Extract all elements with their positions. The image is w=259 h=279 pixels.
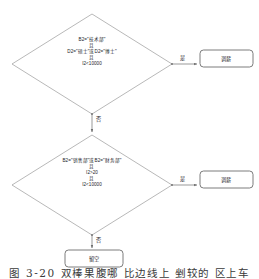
result-2-label: 调薪 bbox=[200, 176, 253, 183]
edge-no-1-label: 否 bbox=[96, 115, 101, 122]
decision-2-shape bbox=[12, 135, 172, 235]
edge-yes-1-label: 是 bbox=[180, 54, 185, 61]
result-3-label: 留空 bbox=[65, 255, 123, 262]
figure-caption: 图 3-20 双棒果腹哪 比边线上 剉较的 区上车 bbox=[0, 265, 259, 279]
result-1-label: 调薪 bbox=[200, 55, 253, 62]
decision-1-shape bbox=[12, 14, 172, 114]
edge-yes-2-label: 是 bbox=[180, 175, 185, 182]
edge-no-2-label: 否 bbox=[96, 236, 101, 243]
